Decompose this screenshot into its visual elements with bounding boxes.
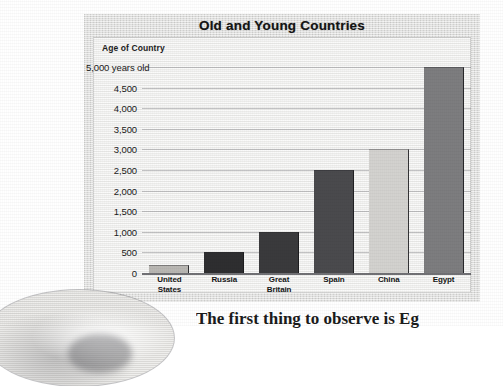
y-axis-tick-label: 4,500	[114, 82, 137, 93]
y-axis-tick-label: 2,000	[114, 185, 137, 196]
x-axis-category-label: GreatBritain	[252, 275, 307, 295]
bar-fill	[204, 252, 244, 273]
category-label-line: Russia	[197, 275, 252, 285]
x-axis-category-label: Russia	[197, 275, 252, 285]
bar-fill	[424, 67, 464, 273]
y-axis-label: Age of Country	[102, 43, 165, 53]
oval-photo	[0, 290, 174, 386]
bar-series	[142, 67, 471, 273]
y-axis-tick-label: 1,000	[114, 226, 137, 237]
x-axis-category-label: UnitedStates	[142, 275, 197, 295]
category-label-line: China	[361, 275, 416, 285]
category-label-line: Great	[252, 275, 307, 285]
bar-fill	[314, 170, 354, 273]
photo-subject	[68, 334, 133, 372]
y-axis-tick-label: 3,000	[114, 144, 137, 155]
plot-area: 5,000 years old4,5004,0003,5003,0002,500…	[142, 67, 471, 273]
body-paragraph: The first thing to observe is Eg	[196, 309, 503, 329]
bar	[424, 67, 464, 273]
category-label-line: Britain	[252, 285, 307, 295]
x-axis-category-labels: UnitedStatesRussiaGreatBritainSpainChina…	[142, 275, 471, 301]
bar-fill	[149, 265, 189, 273]
bar	[149, 265, 189, 273]
y-axis-tick-label: 2,500	[114, 165, 137, 176]
x-axis-category-label: Spain	[307, 275, 362, 285]
category-label-line: Egypt	[416, 275, 471, 285]
category-label-line: States	[142, 285, 197, 295]
y-axis-tick-label: 0	[132, 268, 137, 279]
y-axis-tick-label: 4,000	[114, 103, 137, 114]
y-axis-tick-label: 1,500	[114, 206, 137, 217]
category-label-line: United	[142, 275, 197, 285]
bar	[259, 232, 299, 273]
y-axis-tick-label: 3,500	[114, 123, 137, 134]
chart-title: Old and Young Countries	[84, 18, 480, 33]
x-axis-category-label: Egypt	[416, 275, 471, 285]
bar-fill	[369, 149, 409, 273]
y-axis-tick-label: 500	[121, 247, 137, 258]
bar	[204, 252, 244, 273]
chart-figure: Old and Young Countries Age of Country 5…	[84, 14, 480, 302]
category-label-line: Spain	[307, 275, 362, 285]
bar-fill	[259, 232, 299, 273]
bar	[369, 149, 409, 273]
x-axis-category-label: China	[361, 275, 416, 285]
bar	[314, 170, 354, 273]
